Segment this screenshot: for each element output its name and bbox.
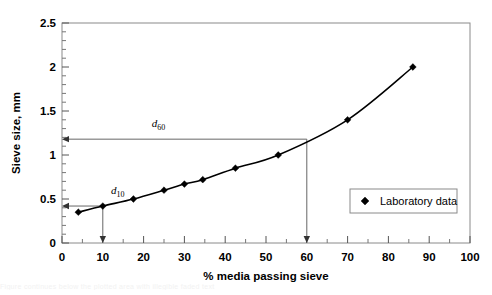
x-tick-label: 50 <box>260 251 273 263</box>
x-tick-label: 0 <box>59 251 65 263</box>
y-tick-label: 0 <box>50 237 56 249</box>
y-tick-label: 1.5 <box>40 105 57 117</box>
x-axis-title: % media passing sieve <box>203 270 328 282</box>
x-tick-label: 100 <box>460 251 479 263</box>
y-tick-label: 2.5 <box>40 17 57 29</box>
y-axis-title: Sieve size, mm <box>10 92 22 174</box>
chart-figure: 00.511.522.5 0102030405060708090100 d60d… <box>0 0 492 295</box>
y-tick-label: 1 <box>50 149 57 161</box>
y-tick-label: 0.5 <box>40 193 57 205</box>
chart-legend[interactable]: Laboratory data <box>350 189 458 213</box>
y-axis-tick-labels: 00.511.522.5 <box>40 17 57 249</box>
x-tick-label: 10 <box>96 251 109 263</box>
faint-bottom-caption: Figure continues below the plotted area … <box>0 283 492 290</box>
x-tick-label: 60 <box>300 251 313 263</box>
x-tick-label: 90 <box>423 251 436 263</box>
sieve-size-chart-svg: 00.511.522.5 0102030405060708090100 d60d… <box>0 0 492 295</box>
x-tick-label: 70 <box>341 251 354 263</box>
annotation-label-subscript: 10 <box>116 190 124 199</box>
annotation-label-subscript: 60 <box>157 123 165 132</box>
x-tick-label: 20 <box>137 251 150 263</box>
y-tick-label: 2 <box>50 61 56 73</box>
legend-entry-label: Laboratory data <box>380 195 458 207</box>
x-tick-label: 30 <box>178 251 191 263</box>
x-tick-label: 80 <box>382 251 395 263</box>
x-axis-tick-labels: 0102030405060708090100 <box>59 251 480 263</box>
x-tick-label: 40 <box>219 251 232 263</box>
